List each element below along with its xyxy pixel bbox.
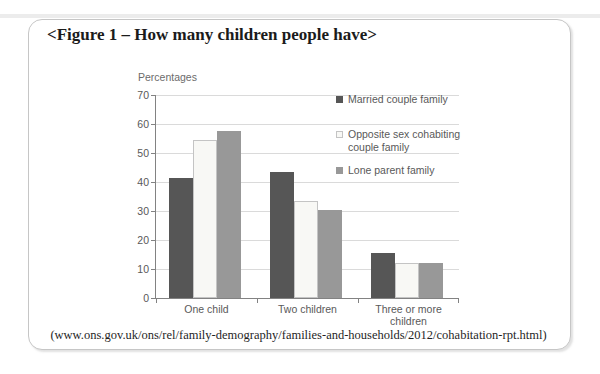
legend-label: Lone parent family xyxy=(348,164,474,177)
x-axis-category-label: Three or more children xyxy=(358,303,459,327)
legend-label: Opposite sex cohabiting couple family xyxy=(348,128,474,154)
bar xyxy=(217,131,241,298)
y-axis-tick-label: 50 xyxy=(116,147,149,160)
legend: Married couple familyOpposite sex cohabi… xyxy=(336,93,496,177)
legend-item: Opposite sex cohabiting couple family xyxy=(336,128,496,154)
y-axis-tick xyxy=(151,95,155,96)
legend-swatch-icon xyxy=(336,96,343,103)
bar xyxy=(193,140,217,298)
bar xyxy=(419,263,443,298)
source-url: (www.ons.gov.uk/ons/rel/family-demograph… xyxy=(28,328,569,343)
y-axis-tick-label: 40 xyxy=(116,176,149,189)
legend-item: Married couple family xyxy=(336,93,496,106)
legend-item: Lone parent family xyxy=(336,164,496,177)
bar xyxy=(371,253,395,298)
y-axis-tick xyxy=(151,211,155,212)
x-axis-category-label: Two children xyxy=(257,303,358,315)
x-axis-category-label: One child xyxy=(156,303,257,315)
y-axis-tick-label: 30 xyxy=(116,205,149,218)
y-axis-tick-label: 20 xyxy=(116,234,149,247)
y-axis-tick xyxy=(151,182,155,183)
y-axis-tick-label: 10 xyxy=(116,263,149,276)
y-axis-tick xyxy=(151,153,155,154)
legend-label: Married couple family xyxy=(348,93,474,106)
y-axis-tick xyxy=(151,124,155,125)
y-axis-title: Percentages xyxy=(138,71,197,83)
document-page: <Figure 1 – How many children people hav… xyxy=(0,0,600,374)
y-axis-tick-label: 0 xyxy=(116,292,149,305)
bar xyxy=(169,178,193,298)
y-axis-tick xyxy=(151,269,155,270)
bar xyxy=(270,172,294,298)
figure-title: <Figure 1 – How many children people hav… xyxy=(47,25,377,45)
bar xyxy=(395,263,419,298)
y-axis-tick-label: 70 xyxy=(116,89,149,102)
y-axis-tick xyxy=(151,298,155,299)
page-edge-shadow xyxy=(0,14,600,18)
legend-swatch-icon xyxy=(336,167,343,174)
bar xyxy=(318,210,342,299)
y-axis-tick-label: 60 xyxy=(116,118,149,131)
bar xyxy=(294,201,318,298)
y-axis-tick xyxy=(151,240,155,241)
legend-swatch-icon xyxy=(336,131,343,138)
